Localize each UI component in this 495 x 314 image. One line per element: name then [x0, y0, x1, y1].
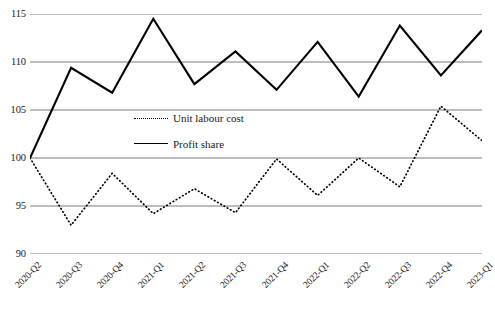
y-tick-label: 105 [11, 105, 26, 116]
legend-label: Unit labour cost [173, 112, 244, 124]
x-tick-label: 2022-Q2 [342, 260, 372, 290]
y-tick-label: 110 [11, 57, 26, 68]
legend-item-unit-labour-cost[interactable]: Unit labour cost [134, 110, 244, 126]
y-tick-label: 95 [16, 201, 26, 212]
legend-swatch-dotted-line-icon [134, 112, 168, 124]
x-tick-label: 2023-Q1 [465, 260, 495, 290]
y-axis: 1151101051009590 [0, 0, 30, 314]
y-tick-label: 115 [11, 9, 26, 20]
x-tick-label: 2022-Q4 [424, 260, 454, 290]
x-tick-label: 2020-Q3 [54, 260, 84, 290]
legend-item-profit-share[interactable]: Profit share [134, 136, 224, 152]
legend-label: Profit share [173, 138, 224, 150]
x-tick-label: 2021-Q4 [260, 260, 290, 290]
x-tick-label: 2021-Q3 [219, 260, 249, 290]
legend-swatch-solid-line-icon [134, 138, 168, 150]
x-tick-label: 2022-Q3 [383, 260, 413, 290]
x-tick-label: 2021-Q2 [177, 260, 207, 290]
x-tick-label: 2022-Q1 [301, 260, 331, 290]
chart-legend: Unit labour cost Profit share [134, 110, 274, 154]
x-tick-label: 2021-Q1 [136, 260, 166, 290]
x-tick-label: 2020-Q4 [95, 260, 125, 290]
y-tick-label: 100 [11, 153, 26, 164]
x-axis: 2020-Q22020-Q32020-Q42021-Q12021-Q22021-… [30, 254, 482, 314]
y-tick-label: 90 [16, 249, 26, 260]
